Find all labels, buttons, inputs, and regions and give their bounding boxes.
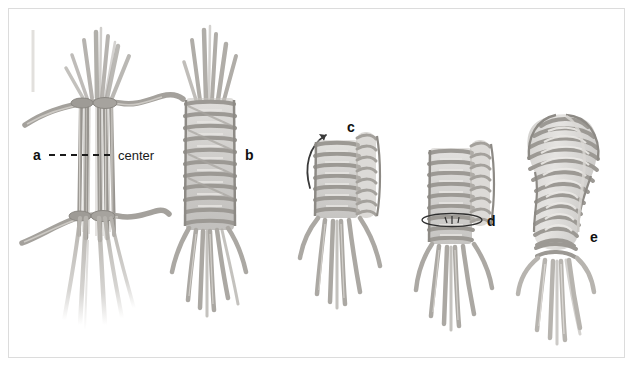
step-label-c: c bbox=[347, 120, 355, 134]
new-coil-column-c bbox=[356, 132, 380, 218]
figure-root: a center b c d e bbox=[0, 0, 634, 367]
step-c-illustration bbox=[300, 132, 380, 308]
step-b-illustration bbox=[172, 26, 246, 316]
step-label-e: e bbox=[590, 230, 598, 244]
step-label-a: a bbox=[33, 148, 41, 162]
step-d-illustration bbox=[416, 140, 494, 330]
illustration-artwork bbox=[0, 0, 634, 367]
step-label-d: d bbox=[487, 214, 496, 228]
step-label-b: b bbox=[245, 148, 254, 162]
step-e-illustration bbox=[518, 114, 598, 344]
step-a-illustration bbox=[22, 28, 183, 332]
center-line-label: center bbox=[118, 149, 154, 162]
